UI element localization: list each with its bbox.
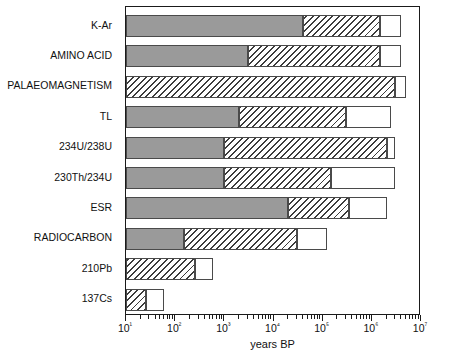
category-label: 137Cs bbox=[82, 293, 112, 304]
x-tick-minor bbox=[386, 315, 387, 319]
x-tick-minor bbox=[247, 315, 248, 319]
bar-segment-reliable-age bbox=[224, 137, 386, 159]
x-tick-minor bbox=[412, 315, 413, 319]
bar-segment-maximum-age bbox=[146, 289, 165, 311]
x-tick-minor bbox=[405, 315, 406, 319]
x-tick-minor bbox=[204, 315, 205, 319]
bar-row bbox=[126, 167, 421, 189]
x-tick-minor bbox=[336, 315, 337, 319]
category-label: TL bbox=[100, 111, 112, 122]
bar-segment-maximum-age bbox=[387, 137, 396, 159]
x-tick-minor bbox=[169, 315, 170, 319]
x-tick-major bbox=[420, 315, 421, 321]
x-tick-minor bbox=[360, 315, 361, 319]
x-tick-minor bbox=[394, 315, 395, 319]
x-tick-minor bbox=[140, 315, 141, 319]
x-tick-minor bbox=[311, 315, 312, 319]
x-tick-minor bbox=[253, 315, 254, 319]
x-tick-label: 10⁶ bbox=[363, 322, 378, 334]
bar-segment-reliable-age bbox=[184, 228, 297, 250]
x-tick-minor bbox=[287, 315, 288, 319]
x-tick-major bbox=[223, 315, 224, 321]
x-tick-minor bbox=[317, 315, 318, 319]
category-label: AMINO ACID bbox=[50, 50, 112, 61]
bar-segment-minimum-age bbox=[126, 167, 224, 189]
x-tick-minor bbox=[198, 315, 199, 319]
bar-segment-reliable-age bbox=[126, 76, 395, 98]
x-axis-title: years BP bbox=[125, 338, 420, 350]
x-tick-label: 10¹ bbox=[118, 322, 132, 334]
bar-segment-maximum-age bbox=[346, 106, 391, 128]
category-label: ESR bbox=[90, 202, 112, 213]
x-tick-major bbox=[371, 315, 372, 321]
x-tick-minor bbox=[307, 315, 308, 319]
x-tick-minor bbox=[356, 315, 357, 319]
bar-row bbox=[126, 258, 421, 280]
bar-segment-reliable-age bbox=[303, 15, 380, 37]
x-tick-minor bbox=[163, 315, 164, 319]
x-tick-minor bbox=[159, 315, 160, 319]
bar-row bbox=[126, 76, 421, 98]
bar-segment-reliable-age bbox=[126, 258, 195, 280]
x-tick-minor bbox=[268, 315, 269, 319]
bar-segment-reliable-age bbox=[224, 167, 331, 189]
bar-row bbox=[126, 106, 421, 128]
x-tick-minor bbox=[212, 315, 213, 319]
bar-segment-maximum-age bbox=[380, 45, 401, 67]
bar-segment-minimum-age bbox=[126, 106, 239, 128]
x-tick-minor bbox=[270, 315, 271, 319]
x-tick-major bbox=[273, 315, 274, 321]
bar-segment-reliable-age bbox=[126, 289, 146, 311]
x-tick-minor bbox=[216, 315, 217, 319]
bar-row bbox=[126, 228, 421, 250]
x-tick-minor bbox=[221, 315, 222, 319]
x-tick-label: 10⁷ bbox=[413, 322, 427, 334]
x-tick-minor bbox=[363, 315, 364, 319]
x-tick-minor bbox=[148, 315, 149, 319]
bar-segment-maximum-age bbox=[395, 76, 406, 98]
x-tick-minor bbox=[219, 315, 220, 319]
bar-segment-maximum-age bbox=[349, 197, 386, 219]
bar-row bbox=[126, 289, 421, 311]
x-tick-minor bbox=[400, 315, 401, 319]
bar-segment-maximum-age bbox=[380, 15, 401, 37]
x-tick-minor bbox=[155, 315, 156, 319]
bar-segment-maximum-age bbox=[195, 258, 214, 280]
x-tick-label: 10³ bbox=[216, 322, 230, 334]
x-tick-minor bbox=[345, 315, 346, 319]
bar-segment-maximum-age bbox=[297, 228, 327, 250]
bar-segment-reliable-age bbox=[288, 197, 349, 219]
x-tick-minor bbox=[265, 315, 266, 319]
x-tick-minor bbox=[189, 315, 190, 319]
category-label: PALAEOMAGNETISM bbox=[7, 80, 112, 91]
bar-segment-maximum-age bbox=[331, 167, 395, 189]
x-tick-minor bbox=[418, 315, 419, 319]
x-tick-minor bbox=[296, 315, 297, 319]
bar-segment-reliable-age bbox=[239, 106, 346, 128]
bar-row bbox=[126, 45, 421, 67]
x-tick-minor bbox=[302, 315, 303, 319]
plot-area: minimum agereliable agemaximum age bbox=[125, 6, 420, 315]
category-label: RADIOCARBON bbox=[34, 232, 112, 243]
bar-segment-minimum-age bbox=[126, 15, 303, 37]
x-tick-minor bbox=[238, 315, 239, 319]
x-tick-minor bbox=[369, 315, 370, 319]
x-tick-minor bbox=[172, 315, 173, 319]
x-tick-minor bbox=[319, 315, 320, 319]
x-tick-minor bbox=[167, 315, 168, 319]
category-axis: K-ArAMINO ACIDPALAEOMAGNETISMTL234U/238U… bbox=[0, 0, 120, 315]
category-label: K-Ar bbox=[91, 20, 112, 31]
x-tick-label: 10⁴ bbox=[265, 322, 280, 334]
x-tick-major bbox=[125, 315, 126, 321]
bar-row bbox=[126, 137, 421, 159]
x-tick-minor bbox=[262, 315, 263, 319]
x-tick-major bbox=[322, 315, 323, 321]
x-tick-major bbox=[174, 315, 175, 321]
bar-segment-minimum-age bbox=[126, 197, 288, 219]
x-tick-label: 10² bbox=[167, 322, 181, 334]
x-tick-minor bbox=[415, 315, 416, 319]
bar-segment-reliable-age bbox=[248, 45, 381, 67]
x-tick-minor bbox=[314, 315, 315, 319]
bar-segment-minimum-age bbox=[126, 228, 184, 250]
bar-row bbox=[126, 197, 421, 219]
